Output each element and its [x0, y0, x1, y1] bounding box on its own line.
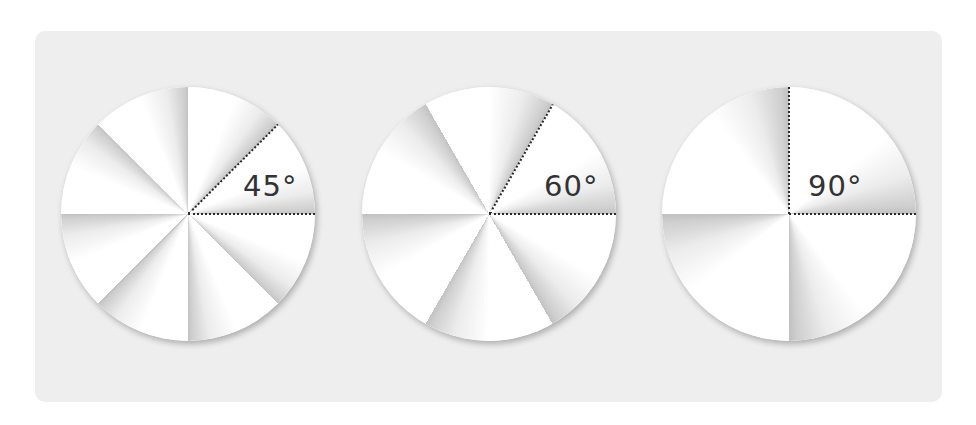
dotted-line-horizontal [188, 213, 315, 215]
dotted-line-vertical [788, 87, 790, 214]
dotted-line-horizontal [789, 213, 916, 215]
angle-label-90: 90° [808, 169, 862, 203]
dotted-line-horizontal [489, 213, 616, 215]
circle-45-degrees: 45° [61, 87, 315, 341]
angle-label-60: 60° [544, 169, 598, 203]
angle-label-45: 45° [243, 169, 297, 203]
circle-60-degrees: 60° [362, 87, 616, 341]
circle-90-degrees: 90° [662, 87, 916, 341]
